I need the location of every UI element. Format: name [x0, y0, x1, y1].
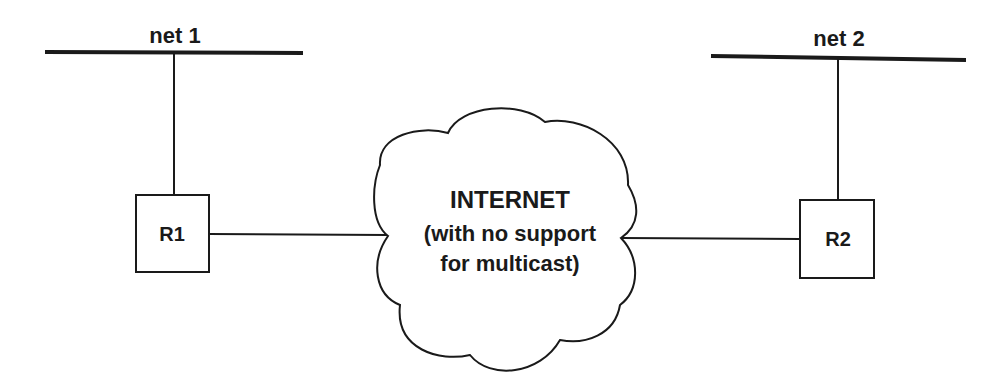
cloud-title: INTERNET [450, 186, 570, 213]
link-r1-internet [209, 234, 388, 235]
router-r2: R2 [800, 200, 874, 278]
link-internet-r2 [621, 238, 800, 239]
router-r1: R1 [136, 195, 209, 272]
net1-label: net 1 [149, 23, 200, 48]
cloud-subtitle-line2: for multicast) [440, 251, 579, 276]
net1-bus-line [45, 52, 303, 53]
r1-label: R1 [159, 223, 185, 245]
network-net1: net 1 [45, 23, 303, 53]
internet-cloud: INTERNET (with no support for multicast) [374, 108, 636, 370]
network-net2: net 2 [711, 26, 966, 60]
net2-label: net 2 [813, 26, 864, 51]
network-diagram: net 1 R1 INTERNET (with no support for m… [0, 0, 1006, 392]
net2-bus-line [711, 56, 966, 60]
r2-label: R2 [825, 228, 851, 250]
cloud-subtitle-line1: (with no support [424, 221, 597, 246]
